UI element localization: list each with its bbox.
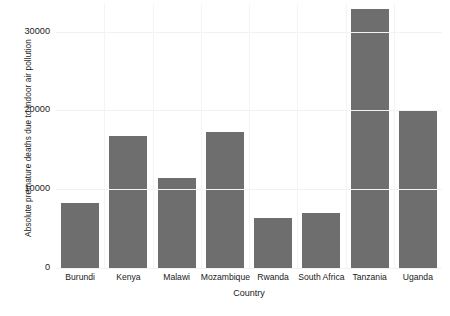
x-tick-label: Malawi xyxy=(153,272,201,282)
bar-slot xyxy=(249,4,297,268)
bar[interactable] xyxy=(351,9,389,268)
x-gridline xyxy=(297,4,298,268)
y-tick-label: 10000 xyxy=(8,184,50,193)
bar[interactable] xyxy=(158,178,196,268)
bar[interactable] xyxy=(109,136,147,268)
x-tick-label: Mozambique xyxy=(201,272,249,282)
bar[interactable] xyxy=(206,132,244,268)
x-tick-label: Tanzania xyxy=(346,272,394,282)
y-tick-label: 30000 xyxy=(8,27,50,36)
plot-area xyxy=(56,4,442,268)
x-gridline xyxy=(153,4,154,268)
x-tick-label: Uganda xyxy=(394,272,442,282)
x-tick-label: Burundi xyxy=(56,272,104,282)
bar-slot xyxy=(153,4,201,268)
x-tick-label: South Africa xyxy=(297,272,345,282)
bar-slot xyxy=(56,4,104,268)
x-tick-label: Rwanda xyxy=(249,272,297,282)
bar-slot xyxy=(394,4,442,268)
bar-slot xyxy=(104,4,152,268)
y-tick-label: 0 xyxy=(8,263,50,272)
bar[interactable] xyxy=(61,203,99,268)
y-gridline xyxy=(56,268,442,269)
y-tick-label: 20000 xyxy=(8,105,50,114)
bar-slot xyxy=(201,4,249,268)
y-axis-title: Absolute premature deaths due to indoor … xyxy=(22,4,36,272)
bar-slot xyxy=(346,4,394,268)
bar[interactable] xyxy=(254,218,292,268)
x-gridline xyxy=(346,4,347,268)
bar-chart: Absolute premature deaths due to indoor … xyxy=(0,0,450,316)
x-gridline xyxy=(394,4,395,268)
bar[interactable] xyxy=(302,213,340,268)
x-axis-title: Country xyxy=(56,288,442,298)
x-gridline xyxy=(201,4,202,268)
bar-slot xyxy=(297,4,345,268)
x-gridline xyxy=(249,4,250,268)
x-tick-label: Kenya xyxy=(104,272,152,282)
x-gridline xyxy=(104,4,105,268)
